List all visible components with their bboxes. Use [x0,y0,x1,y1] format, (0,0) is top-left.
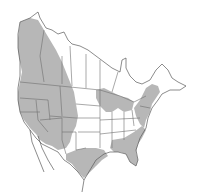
range-layer [18,18,160,178]
range-west [18,18,78,150]
range-map [0,0,205,192]
range-texas [66,148,108,178]
range-great-lakes [96,88,134,112]
